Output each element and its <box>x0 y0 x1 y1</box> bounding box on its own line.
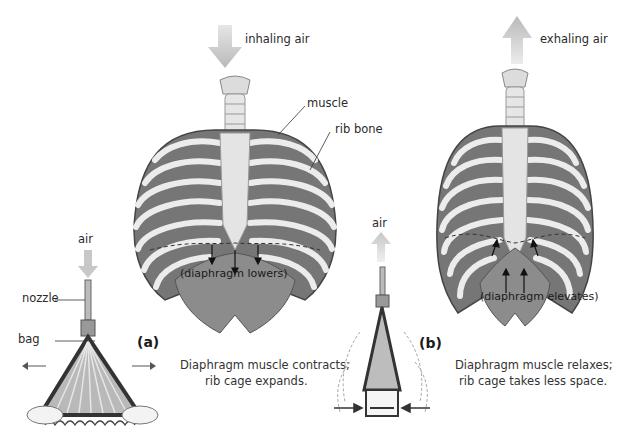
panel-b-caption-line1: Diaphragm muscle relaxes; <box>455 357 613 373</box>
bag-leader-lines-a <box>55 290 145 350</box>
diaphragm-elevates-label: (diaphragm elevates) <box>480 290 598 303</box>
bag-air-outlet-arrow-icon <box>371 232 391 262</box>
ribcage-relaxed-illustration <box>430 68 600 328</box>
panel-a-caption-line1: Diaphragm muscle contracts; <box>180 357 350 373</box>
leader-lines-a <box>270 100 350 180</box>
rib-bone-label: rib bone <box>335 122 383 136</box>
bellows-compressed-illustration <box>330 262 440 440</box>
bag-air-inlet-arrow-icon <box>78 250 98 278</box>
inhale-arrow-icon <box>205 25 245 70</box>
diaphragm-lowers-label: (diaphragm lowers) <box>180 267 288 280</box>
exhale-arrow-icon <box>500 16 534 64</box>
expand-right-arrow-icon <box>132 361 156 371</box>
bag-air-label-b: air <box>372 216 387 230</box>
bag-air-label-a: air <box>78 232 93 246</box>
panel-a-caption-line2: rib cage expands. <box>205 373 308 389</box>
muscle-label: muscle <box>307 96 348 110</box>
panel-a-tag: (a) <box>137 334 159 350</box>
inhaling-air-label: inhaling air <box>245 32 309 46</box>
panel-b-caption-line2: rib cage takes less space. <box>459 373 607 389</box>
nozzle-label: nozzle <box>22 291 59 305</box>
bag-label: bag <box>18 332 40 346</box>
panel-b-tag: (b) <box>419 335 442 351</box>
exhaling-air-label: exhaling air <box>540 32 608 46</box>
expand-left-arrow-icon <box>22 361 46 371</box>
